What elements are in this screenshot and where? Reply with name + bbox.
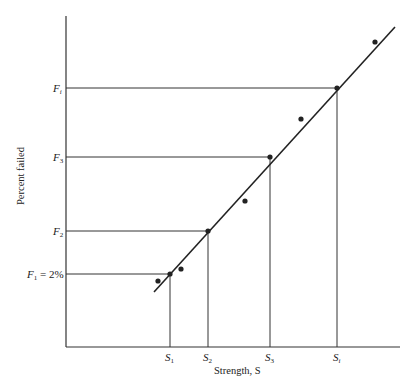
data-points bbox=[155, 39, 377, 283]
ref-line-fi-si bbox=[66, 88, 337, 347]
y-tick-f3: F3 bbox=[52, 151, 64, 165]
y-tick-fi: Fi bbox=[52, 82, 62, 96]
probability-plot: Fi F3 F2 F1 = 2% S1 S2 S3 Si Strength, S… bbox=[0, 0, 415, 387]
ref-line-f2-s2 bbox=[66, 231, 208, 347]
x-tick-si: Si bbox=[333, 351, 341, 365]
x-tick-s1: S1 bbox=[165, 351, 175, 365]
y-tick-f2: F2 bbox=[52, 225, 64, 239]
ref-line-f1-s1 bbox=[66, 274, 170, 347]
reference-lines bbox=[66, 88, 337, 347]
x-tick-s2: S2 bbox=[203, 351, 213, 365]
y-axis-title: Percent failed bbox=[15, 146, 26, 205]
x-axis-title: Strength, S bbox=[214, 365, 261, 376]
y-tick-f1: F1 = 2% bbox=[26, 268, 64, 282]
x-tick-s3: S3 bbox=[265, 351, 275, 365]
fit-line bbox=[154, 27, 395, 292]
ref-line-f3-s3 bbox=[66, 157, 270, 347]
